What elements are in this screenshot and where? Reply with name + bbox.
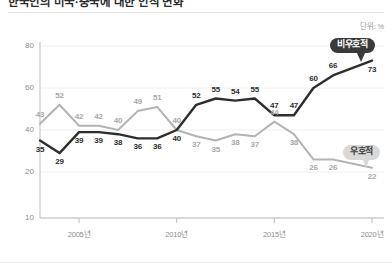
y-tick-label: 40 <box>14 125 34 134</box>
x-tick-label: 2015년 <box>251 228 297 239</box>
data-label: 42 <box>69 112 89 121</box>
data-label: 39 <box>69 136 89 145</box>
data-label: 37 <box>186 140 206 149</box>
legend-badge-unfavorable[interactable]: 비우호적 <box>330 38 375 53</box>
y-tick-label: 80 <box>14 41 34 50</box>
bottom-divider <box>0 262 392 263</box>
data-label: 26 <box>303 163 323 172</box>
data-label: 60 <box>303 74 323 83</box>
legend-badge-favorable-pointer <box>363 160 369 168</box>
data-label: 22 <box>362 172 382 181</box>
data-label: 40 <box>167 134 187 143</box>
legend-badge-unfavorable-pointer <box>357 53 365 62</box>
y-tick-label: 60 <box>14 83 34 92</box>
data-label: 40 <box>167 116 187 125</box>
data-label: 73 <box>362 65 382 74</box>
data-label: 52 <box>186 91 206 100</box>
legend-badge-favorable[interactable]: 우호적 <box>343 145 380 160</box>
data-label: 26 <box>323 163 343 172</box>
data-label: 36 <box>128 142 148 151</box>
chart-page: 한국인의 미국·중국에 대한 인식 변화 단위: % 1020406080 20… <box>0 0 392 268</box>
x-tick-label: 2020년 <box>349 228 392 239</box>
data-label: 38 <box>225 138 245 147</box>
data-label: 35 <box>30 145 50 154</box>
data-label: 39 <box>89 136 109 145</box>
data-label: 35 <box>206 145 226 154</box>
data-label: 55 <box>245 85 265 94</box>
data-label: 29 <box>50 157 70 166</box>
data-label: 55 <box>206 85 226 94</box>
data-label: 43 <box>30 110 50 119</box>
data-label: 66 <box>323 61 343 70</box>
data-label: 44 <box>264 108 284 117</box>
data-label: 38 <box>284 138 304 147</box>
data-label: 52 <box>50 91 70 100</box>
data-label: 49 <box>128 97 148 106</box>
data-label: 54 <box>225 87 245 96</box>
x-axis-ticks <box>79 218 372 223</box>
data-label: 36 <box>147 142 167 151</box>
x-tick-label: 2005년 <box>56 228 102 239</box>
data-label: 42 <box>89 112 109 121</box>
data-label: 47 <box>284 101 304 110</box>
x-tick-label: 2010년 <box>154 228 200 239</box>
y-tick-label: 10 <box>14 213 34 222</box>
data-label: 51 <box>147 93 167 102</box>
data-label: 40 <box>108 116 128 125</box>
data-label: 38 <box>108 138 128 147</box>
data-label: 37 <box>245 140 265 149</box>
y-tick-label: 20 <box>14 167 34 176</box>
